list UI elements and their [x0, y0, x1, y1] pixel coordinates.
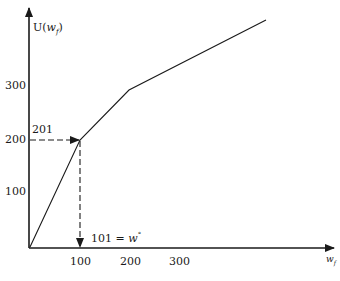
annotation-101-prefix: 101 =: [91, 232, 128, 245]
y-axis-title: U(wf): [33, 22, 63, 38]
annotation-201: 201: [32, 124, 53, 136]
x-title-sub: f: [334, 259, 336, 266]
y-tick-300: 300: [5, 80, 26, 92]
y-tick-100: 100: [5, 186, 26, 198]
y-title-prefix: U(: [33, 21, 47, 34]
annotation-101-var: w: [128, 232, 137, 245]
annotation-101: 101 = w°: [91, 229, 141, 245]
y-title-var: w: [47, 21, 56, 34]
x-tick-100: 100: [70, 256, 91, 268]
x-tick-300: 300: [169, 256, 190, 268]
chart-canvas: [0, 0, 340, 281]
annotation-101-sup: °: [138, 231, 142, 239]
x-tick-200: 200: [120, 256, 141, 268]
utility-curve: [30, 20, 266, 247]
y-title-suffix: ): [59, 21, 63, 34]
x-title-var: w: [326, 254, 334, 264]
x-axis-title: wf: [326, 253, 336, 269]
y-tick-200: 200: [5, 134, 26, 146]
